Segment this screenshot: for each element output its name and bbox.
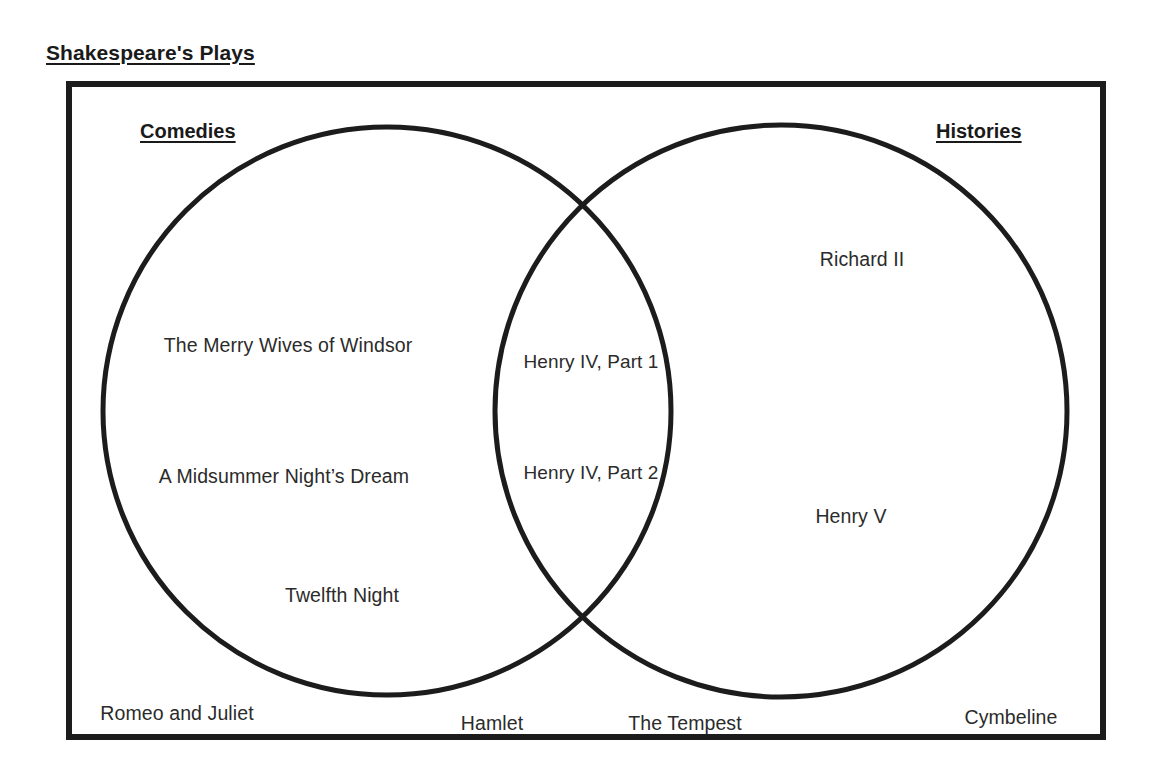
venn-item-label: Henry V [815,505,886,528]
venn-item-label: Henry IV, Part 1 [523,351,658,373]
venn-item-label: Romeo and Juliet [100,702,253,725]
universe-rectangle [66,81,1106,740]
venn-item-label: The Tempest [628,712,741,735]
set-label-comedies: Comedies [140,120,236,143]
page-title: Shakespeare's Plays [46,41,255,65]
venn-item-label: A Midsummer Night’s Dream [159,465,409,488]
venn-item-label: Hamlet [461,712,523,735]
venn-diagram: Shakespeare's Plays Comedies Histories T… [0,0,1160,768]
venn-item-label: Cymbeline [964,706,1057,729]
venn-item-label: Twelfth Night [285,584,399,607]
venn-item-label: Henry IV, Part 2 [523,462,658,484]
venn-item-label: Richard II [820,248,904,271]
set-label-histories: Histories [936,120,1022,143]
venn-item-label: The Merry Wives of Windsor [164,334,413,357]
